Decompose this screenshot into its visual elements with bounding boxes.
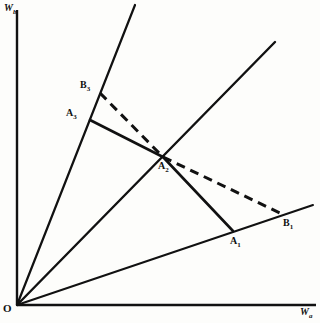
x-axis-label-sub: a [309,312,313,320]
ray-middle [17,42,275,305]
label-B3-sub: 3 [87,85,91,93]
x-axis-label-text: W [300,306,309,317]
label-A1: A1 [230,236,241,249]
y-axis-label-text: W [4,2,13,13]
label-B3-text: B [80,79,87,90]
label-B1: B1 [283,218,293,231]
b-path-polyline [100,93,280,213]
ray-steep [17,5,135,305]
label-A1-sub: 1 [237,241,241,249]
label-A2: A2 [158,161,169,174]
edgeworth-box-figure: Wb Wa O B3 A3 A2 A1 B1 [0,0,320,323]
label-B1-text: B [283,217,290,228]
label-A3: A3 [66,108,77,121]
y-axis-label: Wb [4,3,16,16]
y-axis-label-sub: b [13,8,17,16]
ray-shallow [17,205,313,305]
label-B3: B3 [80,80,90,93]
a-path-polyline [90,120,233,231]
origin-label: O [3,303,12,314]
x-axis-label: Wa [300,307,312,320]
label-A2-sub: 2 [165,166,169,174]
label-B1-sub: 1 [290,223,294,231]
label-A3-sub: 3 [73,113,77,121]
